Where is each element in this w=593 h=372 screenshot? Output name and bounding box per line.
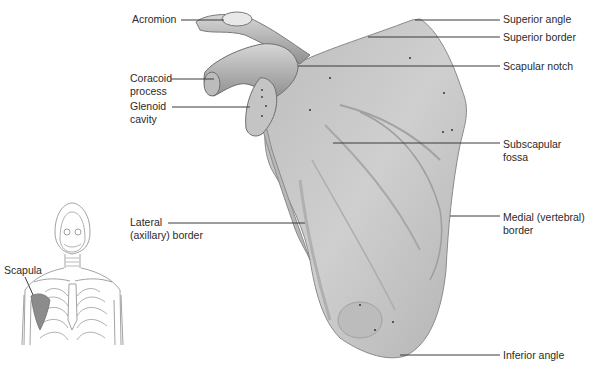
label-coracoid-process-line2: process bbox=[130, 85, 167, 98]
label-glenoid-cavity-line2: cavity bbox=[130, 113, 157, 126]
scapula-illustration bbox=[0, 0, 593, 372]
label-inset-scapula: Scapula bbox=[4, 264, 42, 277]
label-lateral-border-line2: (axillary) border bbox=[130, 229, 203, 242]
label-glenoid-cavity-line1: Glenoid bbox=[130, 100, 166, 113]
scapula-diagram: Acromion Coracoid process Glenoid cavity… bbox=[0, 0, 593, 372]
label-medial-border-line1: Medial (vertebral) bbox=[503, 211, 585, 224]
label-subscapular-fossa-line2: fossa bbox=[503, 151, 528, 164]
label-medial-border-line2: border bbox=[503, 224, 533, 237]
label-superior-angle: Superior angle bbox=[503, 13, 571, 26]
label-lateral-border-line1: Lateral bbox=[130, 216, 162, 229]
label-coracoid-process-line1: Coracoid bbox=[130, 72, 172, 85]
label-subscapular-fossa-line1: Subscapular bbox=[503, 138, 561, 151]
coracoid-process bbox=[204, 44, 298, 98]
label-acromion: Acromion bbox=[132, 13, 176, 26]
inset-scapula-highlight bbox=[31, 294, 50, 330]
label-superior-border: Superior border bbox=[503, 31, 576, 44]
label-scapular-notch: Scapular notch bbox=[503, 60, 573, 73]
label-inferior-angle: Inferior angle bbox=[503, 349, 564, 362]
